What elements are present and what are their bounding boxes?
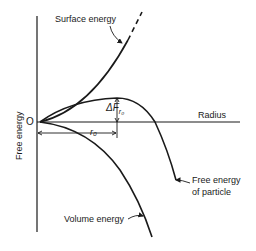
delta-f-label: ΔFr₀ [106,103,124,115]
particle-label-line2: of particle [192,188,231,197]
volume-energy-label: Volume energy [64,215,124,224]
origin-label: O [26,117,34,127]
nucleation-diagram: Surface energy Radius O Free energy ΔFr₀… [0,0,256,251]
r0-label: r₀ [90,128,97,137]
surface-energy-dashed [128,12,142,40]
particle-label-line1: Free energy [192,176,241,185]
surface-energy-label: Surface energy [55,15,116,24]
y-axis-label: Free energy [14,111,24,160]
radius-label: Radius [198,111,226,120]
surface-leader [110,26,122,43]
delta-f-text: ΔF [106,102,119,113]
diagram-svg [0,0,256,251]
volume-leader [128,215,143,219]
delta-f-sub: r₀ [119,108,124,115]
particle-leader [176,180,190,183]
